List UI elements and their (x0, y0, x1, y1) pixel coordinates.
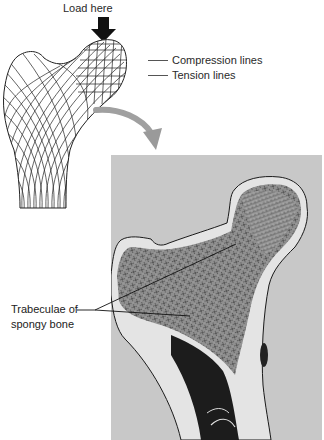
callout-line-2: spongy bone (11, 317, 78, 332)
load-arrow-icon (91, 17, 116, 42)
femur-section-illustration (111, 155, 322, 440)
legend-line-swatch (148, 75, 168, 76)
trabeculae-callout: Trabeculae of spongy bone (11, 302, 78, 332)
legend-line-swatch (148, 60, 168, 61)
femur-section-photo (111, 155, 322, 440)
callout-line-1: Trabeculae of (11, 302, 78, 317)
curved-arrow-icon (96, 110, 162, 150)
